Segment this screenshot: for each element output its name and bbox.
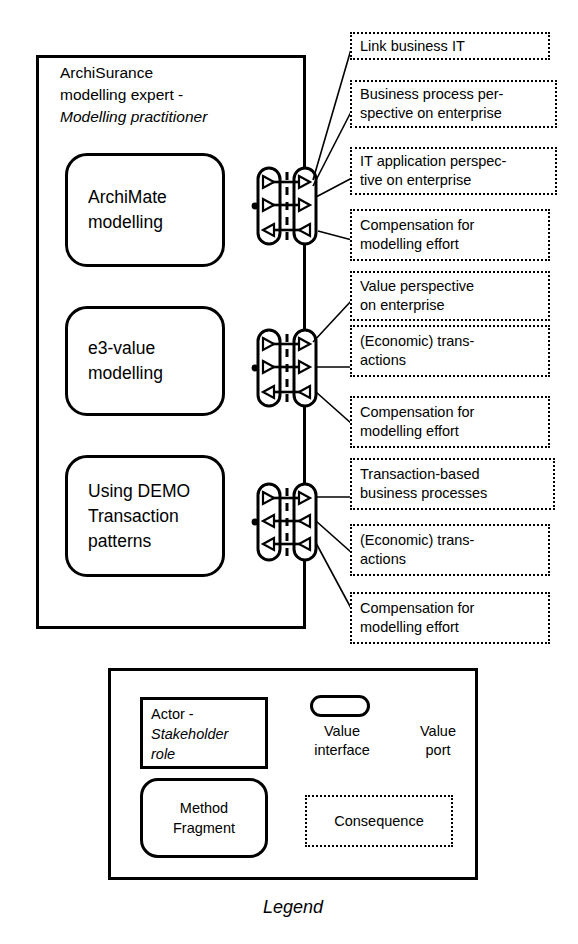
consequence-label: Transaction-based business processes xyxy=(360,465,487,503)
consequence-line-2: modelling effort xyxy=(360,422,474,441)
consequence-label: Business process per- spective on enterp… xyxy=(360,85,503,123)
fragment-line-1: e3-value xyxy=(88,336,163,361)
fragment-line-2: modelling xyxy=(88,361,163,386)
consequence-box[interactable]: (Economic) trans- actions xyxy=(350,524,550,576)
legend-actor-role-1: Stakeholder xyxy=(151,724,265,744)
consequence-box[interactable]: (Economic) trans- actions xyxy=(350,325,550,377)
consequence-link xyxy=(316,178,352,197)
legend-vp-line-2: port xyxy=(398,741,478,760)
legend-fragment-line-2: Fragment xyxy=(173,818,235,838)
consequence-link xyxy=(313,110,352,186)
consequence-label: Value perspective on enterprise xyxy=(360,277,474,315)
legend-fragment-line-1: Method xyxy=(173,798,235,818)
consequence-link xyxy=(318,231,352,240)
actor-label: ArchiSurance modelling expert - Modellin… xyxy=(60,62,300,128)
consequence-box[interactable]: Business process per- spective on enterp… xyxy=(350,80,557,128)
actor-name-line2: modelling expert - xyxy=(60,84,300,106)
method-fragment-archimate[interactable]: ArchiMate modelling xyxy=(65,153,225,267)
legend-vp-line-1: Value xyxy=(398,722,478,741)
consequence-box[interactable]: Link business IT xyxy=(350,32,550,60)
consequence-line-2: business processes xyxy=(360,484,487,503)
legend-value-port-label: Value port xyxy=(398,722,478,760)
consequence-label: Compensation for modelling effort xyxy=(360,216,474,254)
diagram-canvas: ArchiSurance modelling expert - Modellin… xyxy=(0,0,578,944)
fragment-label: e3-value modelling xyxy=(88,336,163,386)
consequence-box[interactable]: Compensation for modelling effort xyxy=(350,209,550,261)
legend-consequence-label: Consequence xyxy=(334,813,424,829)
consequence-link xyxy=(316,392,352,424)
consequence-line-1: Link business IT xyxy=(360,37,465,56)
fragment-line-2: modelling xyxy=(88,210,167,235)
actor-name-line1: ArchiSurance xyxy=(60,62,300,84)
consequence-box[interactable]: Compensation for modelling effort xyxy=(350,592,550,644)
legend-value-interface-icon xyxy=(310,695,370,717)
consequence-line-1: (Economic) trans- xyxy=(360,531,474,550)
legend-value-interface-label: Value interface xyxy=(297,722,387,760)
consequence-label: Compensation for modelling effort xyxy=(360,599,474,637)
fragment-line-2: Transaction xyxy=(88,504,190,529)
legend-fragment-label: Method Fragment xyxy=(173,798,235,838)
consequence-line-1: Transaction-based xyxy=(360,465,487,484)
consequence-line-1: Compensation for xyxy=(360,216,474,235)
consequence-line-2: actions xyxy=(360,550,474,569)
consequence-label: Compensation for modelling effort xyxy=(360,403,474,441)
consequence-box[interactable]: Value perspective on enterprise xyxy=(350,271,550,321)
legend-method-fragment-sample: Method Fragment xyxy=(140,778,268,858)
consequence-label: IT application perspec- tive on enterpri… xyxy=(360,152,506,190)
consequence-line-2: on enterprise xyxy=(360,296,474,315)
consequence-line-2: tive on enterprise xyxy=(360,171,506,190)
legend-actor-sample: Actor - Stakeholder role xyxy=(140,697,268,769)
method-fragment-demo[interactable]: Using DEMO Transaction patterns xyxy=(65,455,225,577)
legend-vi-line-2: interface xyxy=(297,741,387,760)
consequence-line-1: Business process per- xyxy=(360,85,503,104)
consequence-line-1: Compensation for xyxy=(360,599,474,618)
consequence-box[interactable]: Transaction-based business processes xyxy=(350,458,555,510)
consequence-label: (Economic) trans- actions xyxy=(360,531,474,569)
legend-consequence-sample: Consequence xyxy=(305,795,453,847)
consequence-line-1: (Economic) trans- xyxy=(360,332,474,351)
consequence-link xyxy=(313,46,352,180)
consequence-link xyxy=(316,521,352,553)
consequence-label: (Economic) trans- actions xyxy=(360,332,474,370)
consequence-line-1: Value perspective xyxy=(360,277,474,296)
legend-caption: Legend xyxy=(108,897,478,918)
consequence-label: Link business IT xyxy=(360,37,465,56)
method-fragment-e3value[interactable]: e3-value modelling xyxy=(65,306,225,416)
fragment-line-1: ArchiMate xyxy=(88,185,167,210)
legend-vi-line-1: Value xyxy=(297,722,387,741)
consequence-line-1: Compensation for xyxy=(360,403,474,422)
legend-actor-line-1: Actor - xyxy=(151,704,265,724)
consequence-line-1: IT application perspec- xyxy=(360,152,506,171)
fragment-label: ArchiMate modelling xyxy=(88,185,167,235)
consequence-box[interactable]: Compensation for modelling effort xyxy=(350,396,550,448)
consequence-link xyxy=(316,543,352,610)
consequence-box[interactable]: IT application perspec- tive on enterpri… xyxy=(350,147,557,195)
fragment-line-3: patterns xyxy=(88,529,190,554)
legend-actor-role-2: role xyxy=(151,744,265,764)
consequence-link xyxy=(313,300,352,342)
fragment-line-1: Using DEMO xyxy=(88,479,190,504)
consequence-line-2: spective on enterprise xyxy=(360,104,503,123)
consequence-line-2: actions xyxy=(360,351,474,370)
actor-role: Modelling practitioner xyxy=(60,106,300,128)
consequence-line-2: modelling effort xyxy=(360,235,474,254)
fragment-label: Using DEMO Transaction patterns xyxy=(88,479,190,554)
consequence-line-2: modelling effort xyxy=(360,618,474,637)
